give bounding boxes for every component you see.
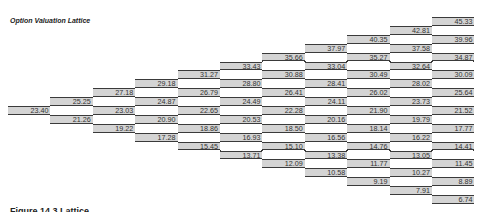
lattice-node: 13.38 — [305, 151, 347, 160]
lattice-spacer — [220, 124, 262, 133]
lattice-node: 40.35 — [347, 35, 389, 44]
lattice-node: 26.02 — [347, 88, 389, 97]
lattice-node: 35.27 — [347, 53, 389, 62]
lattice-spacer — [305, 124, 347, 133]
lattice-node: 6.74 — [432, 195, 474, 204]
lattice-spacer — [262, 97, 304, 106]
lattice-spacer — [262, 62, 304, 71]
lattice-node: 20.90 — [135, 115, 177, 124]
lattice-spacer — [50, 106, 92, 115]
lattice-spacer — [347, 151, 389, 160]
lattice-spacer — [178, 79, 220, 88]
lattice-node: 39.96 — [432, 35, 474, 44]
lattice-node: 12.09 — [262, 159, 304, 168]
lattice-node: 24.49 — [220, 97, 262, 106]
lattice-spacer — [432, 168, 474, 177]
lattice-node: 33.43 — [220, 62, 262, 71]
lattice-spacer — [390, 159, 432, 168]
lattice-node: 23.73 — [390, 97, 432, 106]
lattice-node: 28.41 — [305, 79, 347, 88]
lattice-node: 11.77 — [347, 159, 389, 168]
lattice-node: 10.27 — [390, 168, 432, 177]
lattice-spacer — [220, 70, 262, 79]
lattice-spacer — [390, 106, 432, 115]
figure-caption: Figure 14.3 Lattice — [10, 206, 89, 212]
lattice-spacer — [390, 35, 432, 44]
lattice-spacer — [390, 124, 432, 133]
lattice-node: 18.14 — [347, 124, 389, 133]
lattice-node: 32.64 — [390, 62, 432, 71]
lattice-node: 19.79 — [390, 115, 432, 124]
lattice-node: 29.18 — [135, 79, 177, 88]
lattice-node: 26.79 — [178, 88, 220, 97]
lattice-node: 13.05 — [390, 151, 432, 160]
lattice-spacer — [390, 70, 432, 79]
lattice-spacer — [432, 115, 474, 124]
lattice-node: 11.45 — [432, 159, 474, 168]
lattice-spacer — [432, 186, 474, 195]
lattice-spacer — [390, 177, 432, 186]
lattice-node: 30.88 — [262, 70, 304, 79]
lattice-spacer — [262, 151, 304, 160]
lattice-spacer — [432, 151, 474, 160]
lattice-node: 14.41 — [432, 142, 474, 151]
lattice-spacer — [178, 115, 220, 124]
lattice-node: 9.19 — [347, 177, 389, 186]
lattice-spacer — [305, 70, 347, 79]
lattice-spacer — [135, 106, 177, 115]
lattice-spacer — [220, 142, 262, 151]
lattice-node: 8.89 — [432, 177, 474, 186]
lattice-node: 19.22 — [93, 124, 135, 133]
lattice-spacer — [305, 159, 347, 168]
lattice-spacer — [432, 133, 474, 142]
option-valuation-lattice: 23.4025.2521.2627.1823.0319.2229.1824.87… — [0, 0, 482, 212]
lattice-node: 17.28 — [135, 133, 177, 142]
lattice-spacer — [432, 62, 474, 71]
lattice-spacer — [178, 97, 220, 106]
lattice-spacer — [305, 53, 347, 62]
lattice-spacer — [220, 88, 262, 97]
lattice-node: 37.97 — [305, 44, 347, 53]
lattice-spacer — [305, 142, 347, 151]
lattice-node: 16.56 — [305, 133, 347, 142]
lattice-spacer — [347, 62, 389, 71]
lattice-spacer — [390, 142, 432, 151]
lattice-node: 24.87 — [135, 97, 177, 106]
lattice-spacer — [432, 44, 474, 53]
lattice-spacer — [347, 44, 389, 53]
lattice-node: 16.93 — [220, 133, 262, 142]
lattice-spacer — [432, 97, 474, 106]
lattice-node: 18.50 — [262, 124, 304, 133]
lattice-node: 42.81 — [390, 26, 432, 35]
lattice-spacer — [432, 79, 474, 88]
lattice-node: 16.22 — [390, 133, 432, 142]
lattice-node: 30.49 — [347, 70, 389, 79]
lattice-node: 30.09 — [432, 70, 474, 79]
lattice-node: 21.52 — [432, 106, 474, 115]
lattice-node: 10.58 — [305, 168, 347, 177]
lattice-node: 45.33 — [432, 17, 474, 26]
lattice-node: 35.66 — [262, 53, 304, 62]
lattice-spacer — [262, 79, 304, 88]
lattice-node: 15.45 — [178, 142, 220, 151]
lattice-spacer — [347, 133, 389, 142]
lattice-node: 21.26 — [50, 115, 92, 124]
lattice-node: 25.64 — [432, 88, 474, 97]
lattice-spacer — [347, 97, 389, 106]
lattice-spacer — [135, 124, 177, 133]
lattice-node: 20.53 — [220, 115, 262, 124]
lattice-node: 15.10 — [262, 142, 304, 151]
lattice-node: 23.03 — [93, 106, 135, 115]
lattice-node: 33.04 — [305, 62, 347, 71]
lattice-node: 7.91 — [390, 186, 432, 195]
lattice-spacer — [347, 115, 389, 124]
lattice-node: 26.41 — [262, 88, 304, 97]
lattice-node: 17.77 — [432, 124, 474, 133]
lattice-spacer — [220, 106, 262, 115]
lattice-node: 21.90 — [347, 106, 389, 115]
lattice-spacer — [262, 115, 304, 124]
lattice-node: 28.80 — [220, 79, 262, 88]
lattice-node: 18.86 — [178, 124, 220, 133]
lattice-node: 37.58 — [390, 44, 432, 53]
lattice-node: 22.28 — [262, 106, 304, 115]
